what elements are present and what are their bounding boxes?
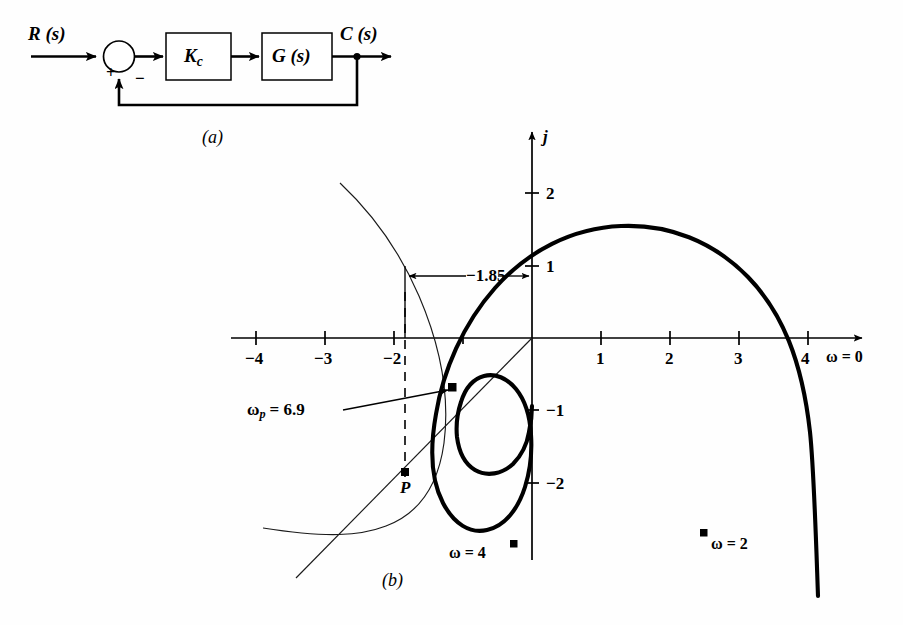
- omega-0-label: ω = 0: [826, 349, 863, 365]
- output-signal-label: C (s): [340, 24, 377, 43]
- omega-p-symbol: ω: [247, 400, 259, 419]
- omega-p-callout-label: ωp= 6.9: [247, 401, 305, 421]
- xtick-label-3: 3: [734, 350, 743, 367]
- panel-b-caption: (b): [382, 571, 403, 589]
- gain-block-label: Kc: [184, 46, 203, 69]
- input-signal-label: R (s): [28, 24, 65, 43]
- ytick-label-minus1: −1: [546, 402, 564, 419]
- omega-2-point-marker: [700, 529, 708, 537]
- omega-4-point-marker: [510, 540, 518, 548]
- xtick-label-2: 2: [665, 350, 674, 367]
- xtick-label-4: 4: [801, 350, 810, 367]
- omega-p-point-marker: [448, 383, 457, 392]
- summing-plus-sign: +: [106, 64, 116, 81]
- constant-m-circle-arc: [263, 183, 446, 535]
- block-diagram-group: [31, 33, 391, 105]
- xtick-label-1: 1: [596, 350, 605, 367]
- point-P-label: P: [400, 479, 410, 496]
- figure-root: R (s) + − Kc G (s) C (s) (a) j −4 −3 −2 …: [0, 0, 903, 625]
- xtick-label-minus3: −3: [314, 350, 332, 367]
- omega-p-value: = 6.9: [270, 400, 305, 419]
- dimension-label-1-85: −1.85: [466, 267, 505, 284]
- ytick-label-minus2: −2: [546, 475, 564, 492]
- xtick-label-minus2: −2: [383, 350, 401, 367]
- panel-a-caption: (a): [202, 128, 223, 146]
- process-block-label: G (s): [272, 46, 311, 65]
- summing-minus-sign: −: [135, 70, 145, 87]
- omega-4-label: ω = 4: [449, 545, 486, 561]
- gain-block-subscript: c: [197, 54, 203, 69]
- ytick-label-2: 2: [546, 185, 555, 202]
- imaginary-axis-label: j: [543, 128, 548, 145]
- omega-p-subscript: p: [259, 407, 265, 421]
- figure-canvas: [0, 0, 903, 625]
- ytick-label-1: 1: [546, 258, 555, 275]
- gain-block-symbol: K: [184, 45, 197, 66]
- omega-2-label: ω = 2: [711, 536, 748, 552]
- xtick-label-minus4: −4: [245, 350, 263, 367]
- point-P-marker: [401, 468, 409, 476]
- omega-p-callout-arrow: [343, 390, 448, 410]
